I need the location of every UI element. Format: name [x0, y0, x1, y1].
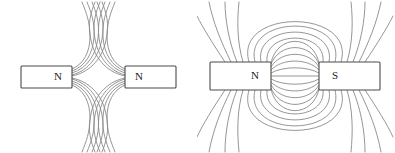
field-line	[254, 26, 336, 62]
repulsion-field-lines	[72, 2, 125, 152]
field-line	[238, 90, 243, 152]
field-line	[271, 79, 319, 84]
field-line	[238, 2, 243, 62]
field-line	[248, 22, 343, 63]
field-line	[271, 82, 319, 91]
pole-label: S	[332, 69, 338, 81]
magnet-body-rect	[125, 66, 176, 88]
field-line	[72, 2, 103, 75]
field-line	[72, 79, 103, 152]
field-line	[347, 2, 352, 62]
attraction-magnet-left: N	[210, 62, 271, 90]
pole-label: N	[135, 70, 143, 82]
field-line	[271, 88, 319, 105]
pole-label: N	[54, 70, 62, 82]
field-line	[254, 90, 336, 126]
field-line	[94, 2, 125, 75]
magnet-body-rect	[210, 62, 271, 90]
repulsion-diagram: N N	[0, 0, 197, 153]
magnetic-field-figure: N N	[0, 0, 395, 153]
field-line	[248, 90, 343, 131]
pole-label: N	[251, 69, 259, 81]
repulsion-magnet-left: N	[21, 66, 72, 88]
field-line	[271, 48, 319, 65]
field-line	[271, 61, 319, 70]
field-line	[94, 79, 125, 152]
attraction-diagram: N S	[197, 0, 395, 153]
field-line	[271, 68, 319, 73]
magnet-body-rect	[21, 66, 72, 88]
repulsion-magnet-right: N	[125, 66, 176, 88]
attraction-magnet-right: S	[319, 62, 380, 90]
field-line	[347, 90, 352, 152]
magnet-body-rect	[319, 62, 380, 90]
